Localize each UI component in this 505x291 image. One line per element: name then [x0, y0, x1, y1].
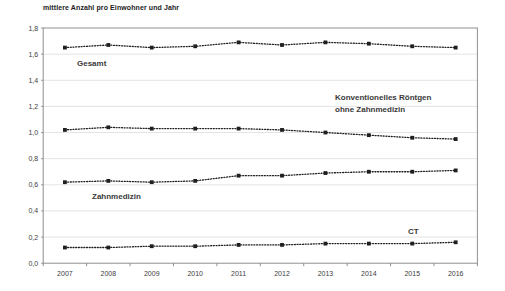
y-tick-label: 1,2	[28, 103, 38, 110]
x-tick-label: 2008	[101, 270, 117, 277]
series-marker	[410, 44, 414, 48]
y-tick-label: 0,2	[28, 234, 38, 241]
y-tick-label: 0,4	[28, 207, 38, 214]
x-tick-label: 2011	[231, 270, 246, 277]
series-marker	[237, 127, 241, 131]
series-marker	[324, 171, 328, 175]
series-marker	[324, 242, 328, 246]
series-marker	[454, 240, 458, 244]
series-label: Zahnmedizin	[92, 192, 141, 201]
series-marker	[410, 136, 414, 140]
series-marker	[63, 180, 67, 184]
series-marker	[106, 246, 110, 250]
series-marker	[454, 137, 458, 141]
y-tick-label: 0,6	[28, 181, 38, 188]
series-marker	[193, 127, 197, 131]
series-marker	[367, 42, 371, 46]
series-label: ohne Zahnmedizin	[335, 105, 405, 114]
series-marker	[324, 40, 328, 44]
series-marker	[106, 43, 110, 47]
series-marker	[63, 46, 67, 50]
x-tick-label: 2013	[318, 270, 334, 277]
y-tick-label: 0,0	[28, 260, 38, 267]
series-marker	[63, 246, 67, 250]
line-chart: 2007200820092010201120122013201420152016…	[0, 0, 505, 291]
series-marker	[280, 243, 284, 247]
series-marker	[150, 244, 154, 248]
series-marker	[367, 170, 371, 174]
series-marker	[324, 131, 328, 135]
series-marker	[454, 169, 458, 173]
series-marker	[237, 174, 241, 178]
y-tick-label: 1,8	[28, 25, 38, 32]
x-tick-label: 2016	[448, 270, 464, 277]
series-marker	[280, 174, 284, 178]
series-label: CT	[408, 227, 419, 236]
series-line	[65, 170, 456, 182]
x-tick-label: 2007	[57, 270, 73, 277]
series-marker	[367, 133, 371, 137]
x-tick-label: 2015	[404, 270, 420, 277]
chart-figure: mittlere Anzahl pro Einwohner und Jahr 2…	[0, 0, 505, 291]
series-marker	[106, 125, 110, 129]
series-marker	[63, 128, 67, 132]
series-marker	[193, 179, 197, 183]
series-marker	[150, 46, 154, 50]
x-tick-label: 2010	[187, 270, 203, 277]
series-marker	[193, 44, 197, 48]
series-label: Konventionelles Röntgen	[335, 93, 432, 102]
series-marker	[150, 127, 154, 131]
series-line	[65, 127, 456, 139]
series-marker	[454, 46, 458, 50]
y-tick-label: 1,6	[28, 51, 38, 58]
x-tick-label: 2009	[144, 270, 160, 277]
x-tick-label: 2014	[361, 270, 377, 277]
series-line	[65, 42, 456, 47]
series-marker	[367, 242, 371, 246]
x-tick-label: 2012	[274, 270, 290, 277]
series-label: Gesamt	[77, 59, 107, 68]
series-marker	[106, 179, 110, 183]
series-marker	[237, 40, 241, 44]
series-marker	[237, 243, 241, 247]
y-tick-label: 1,4	[28, 77, 38, 84]
y-tick-label: 1,0	[28, 129, 38, 136]
series-marker	[193, 244, 197, 248]
series-line	[65, 242, 456, 247]
series-marker	[280, 128, 284, 132]
series-marker	[150, 180, 154, 184]
series-marker	[410, 170, 414, 174]
series-marker	[280, 43, 284, 47]
series-marker	[410, 242, 414, 246]
y-tick-label: 0,8	[28, 155, 38, 162]
